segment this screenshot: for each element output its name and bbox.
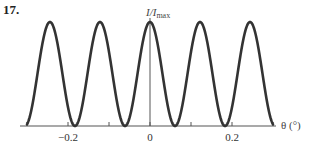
x-tick-label: 0.2 [225, 131, 239, 143]
x-axis-label: θ (°) [281, 119, 301, 132]
y-axis-label: I/Imax [145, 6, 170, 20]
x-tick-label: −0.2 [58, 131, 78, 143]
interference-intensity-chart: −0.200.2 I/Imax θ (°) [0, 0, 316, 147]
x-tick-labels: −0.200.2 [58, 131, 239, 143]
x-tick-label: 0 [147, 131, 153, 143]
